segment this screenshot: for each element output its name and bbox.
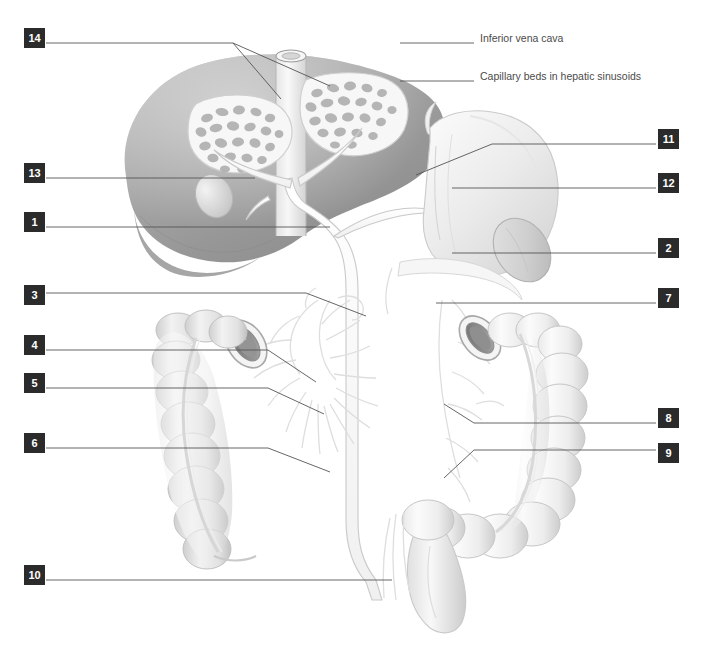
leader-line-9	[444, 450, 656, 478]
leader-line-6	[46, 448, 330, 472]
text-label-capillary-beds: Capillary beds in hepatic sinusoids	[480, 70, 641, 82]
leader-line-5	[46, 388, 324, 414]
callout-box-5[interactable]: 5	[24, 373, 45, 393]
anatomy-figure: Inferior vena cavaCapillary beds in hepa…	[0, 0, 704, 663]
callout-box-8[interactable]: 8	[658, 408, 679, 428]
leader-line-11	[416, 144, 656, 175]
callout-box-14[interactable]: 14	[24, 28, 45, 48]
leader-lines-layer	[0, 0, 704, 663]
callout-box-3[interactable]: 3	[24, 285, 45, 305]
callout-box-12[interactable]: 12	[658, 173, 679, 193]
callout-box-11[interactable]: 11	[658, 129, 679, 149]
leader-line-14-b	[233, 43, 330, 86]
leader-line-4	[46, 350, 316, 382]
callout-box-13[interactable]: 13	[24, 163, 45, 183]
leader-line-14	[46, 43, 281, 99]
callout-box-6[interactable]: 6	[24, 433, 45, 453]
callout-box-1[interactable]: 1	[24, 212, 45, 232]
callout-box-4[interactable]: 4	[24, 335, 45, 355]
leader-line-8	[444, 404, 656, 423]
text-label-inferior-vena-cava: Inferior vena cava	[480, 32, 563, 44]
callout-box-9[interactable]: 9	[658, 443, 679, 463]
callout-box-10[interactable]: 10	[24, 565, 45, 585]
callout-box-7[interactable]: 7	[658, 288, 679, 308]
leader-line-3	[46, 293, 366, 316]
callout-box-2[interactable]: 2	[658, 238, 679, 258]
